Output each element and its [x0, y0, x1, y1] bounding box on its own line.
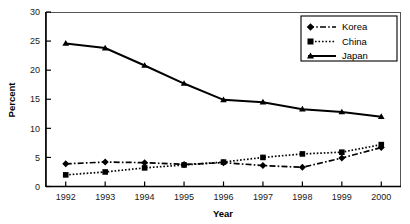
- chart-legend: KoreaChinaJapan: [301, 16, 397, 61]
- data-point: [300, 151, 306, 157]
- y-tick-label: 5: [35, 153, 40, 163]
- y-tick-label: 20: [30, 65, 40, 75]
- data-point: [102, 169, 108, 175]
- y-tick-label: 10: [30, 124, 40, 134]
- y-tick-label: 15: [30, 94, 40, 104]
- legend-label: Korea: [342, 21, 368, 32]
- line-chart: 051015202530 199219931994199519961997199…: [0, 0, 410, 224]
- data-point: [142, 165, 148, 171]
- data-point: [221, 159, 227, 165]
- x-tick-label: 1999: [332, 192, 352, 202]
- x-tick-label: 1993: [95, 192, 115, 202]
- x-tick-label: 2000: [371, 192, 391, 202]
- chart-figure: 051015202530 199219931994199519961997199…: [0, 0, 410, 224]
- x-tick-label: 1998: [292, 192, 312, 202]
- y-tick-label: 0: [35, 182, 40, 192]
- x-tick-label: 1997: [253, 192, 273, 202]
- legend-label: China: [342, 36, 368, 47]
- y-axis-title: Percent: [6, 82, 17, 118]
- legend-marker: [308, 39, 314, 45]
- x-axis-tick-labels: 199219931994199519961997199819992000: [56, 192, 392, 202]
- data-point: [63, 172, 69, 178]
- legend-label: Japan: [342, 50, 368, 61]
- x-axis-title: Year: [213, 208, 233, 219]
- data-point: [260, 155, 266, 161]
- y-tick-label: 25: [30, 36, 40, 46]
- x-tick-label: 1996: [213, 192, 233, 202]
- data-point: [181, 162, 187, 168]
- data-point: [378, 142, 384, 148]
- x-tick-label: 1995: [174, 192, 194, 202]
- data-point: [339, 149, 345, 155]
- x-tick-label: 1994: [135, 192, 155, 202]
- x-tick-label: 1992: [56, 192, 76, 202]
- y-tick-label: 30: [30, 7, 40, 17]
